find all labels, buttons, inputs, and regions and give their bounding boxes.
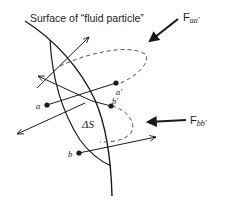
point-b-dot <box>76 150 81 155</box>
force-aa-label: Faa′ <box>183 11 200 25</box>
normal-vector-lower-left-arrow <box>17 103 85 134</box>
force-bb-arrow <box>148 120 186 122</box>
segment-b-prime <box>92 101 111 106</box>
force-bb-label: Fbb′ <box>190 114 207 128</box>
force-aa-arrow <box>150 19 178 41</box>
fluid-particle-diagram: Surface of “fluid particle” Faa′ Fbb′ ΔS… <box>0 0 226 202</box>
point-a-prime-dot <box>113 80 118 85</box>
point-b-label: b <box>68 149 72 159</box>
dashed-path-b <box>100 106 133 142</box>
dashed-path-a <box>60 50 147 84</box>
point-b-prime-label: b′ <box>112 96 118 106</box>
normal-vector-b-arrow <box>79 137 156 153</box>
surface-label: Surface of “fluid particle” <box>30 12 144 24</box>
point-a-label: a <box>36 101 40 111</box>
point-a-dot <box>44 102 49 107</box>
force-aa-label-sub: aa′ <box>190 16 200 25</box>
delta-s-inner-curve <box>50 40 111 166</box>
force-bb-label-sub: bb′ <box>197 119 207 128</box>
normal-vector-upper-arrow <box>37 37 89 88</box>
delta-s-label: ΔS <box>81 118 94 130</box>
